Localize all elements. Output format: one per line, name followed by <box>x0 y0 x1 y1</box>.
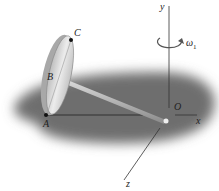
label-omega-subscript: 1 <box>193 43 197 51</box>
label-x: x <box>195 115 201 126</box>
rotation-arrow-icon <box>157 38 184 48</box>
label-b: B <box>47 71 53 82</box>
point-a-marker <box>44 113 48 117</box>
label-omega: ω <box>186 37 193 48</box>
label-a: A <box>42 118 50 129</box>
point-c-marker <box>69 38 73 42</box>
diagram-canvas: C B A O x y z ω 1 <box>0 0 219 191</box>
label-y: y <box>159 1 165 12</box>
label-c: C <box>74 27 81 38</box>
label-z: z <box>125 178 130 189</box>
label-o: O <box>174 101 181 112</box>
